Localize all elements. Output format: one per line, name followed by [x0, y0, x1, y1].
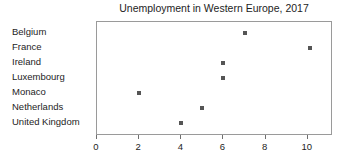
data-point-belgium: [243, 31, 247, 35]
y-axis-label-ireland: Ireland: [0, 56, 90, 67]
x-tick-8: [265, 135, 266, 139]
y-axis-label-luxembourg: Luxembourg: [0, 71, 90, 82]
x-tick-4: [180, 135, 181, 139]
y-axis-label-monaco: Monaco: [0, 86, 90, 97]
x-axis: 0246810: [96, 135, 332, 164]
y-axis-label-united-kingdom: United Kingdom: [0, 116, 90, 127]
x-tick-6: [222, 135, 223, 139]
x-tick-label-0: 0: [93, 141, 98, 152]
y-axis-label-france: France: [0, 41, 90, 52]
x-tick-2: [138, 135, 139, 139]
x-tick-label-2: 2: [135, 141, 140, 152]
y-axis-label-belgium: Belgium: [0, 26, 90, 37]
scatter-chart: Unemployment in Western Europe, 2017 Bel…: [0, 0, 342, 164]
x-tick-label-6: 6: [220, 141, 225, 152]
x-tick-0: [96, 135, 97, 139]
data-point-monaco: [137, 91, 141, 95]
plot-area: [96, 21, 332, 135]
data-point-ireland: [221, 61, 225, 65]
data-point-luxembourg: [221, 76, 225, 80]
data-point-netherlands: [200, 106, 204, 110]
x-tick-label-4: 4: [178, 141, 183, 152]
x-tick-label-8: 8: [262, 141, 267, 152]
chart-title: Unemployment in Western Europe, 2017: [96, 2, 332, 15]
data-point-united-kingdom: [179, 121, 183, 125]
y-axis-label-netherlands: Netherlands: [0, 101, 90, 112]
data-point-france: [308, 46, 312, 50]
x-tick-10: [307, 135, 308, 139]
x-tick-label-10: 10: [301, 141, 312, 152]
y-axis-category-labels: BelgiumFranceIrelandLuxembourgMonacoNeth…: [0, 21, 90, 135]
